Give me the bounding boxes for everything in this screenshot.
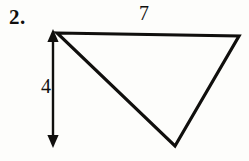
base-length-label: 7 <box>139 3 149 23</box>
geometry-figure: 2. 7 4 <box>0 0 249 161</box>
height-length-label: 4 <box>41 76 51 96</box>
triangle-drawing <box>0 0 249 161</box>
triangle-shape <box>57 33 239 146</box>
arrow-head-down-icon <box>47 135 58 148</box>
arrow-head-up-icon <box>47 29 58 42</box>
problem-number-label: 2. <box>9 7 26 28</box>
